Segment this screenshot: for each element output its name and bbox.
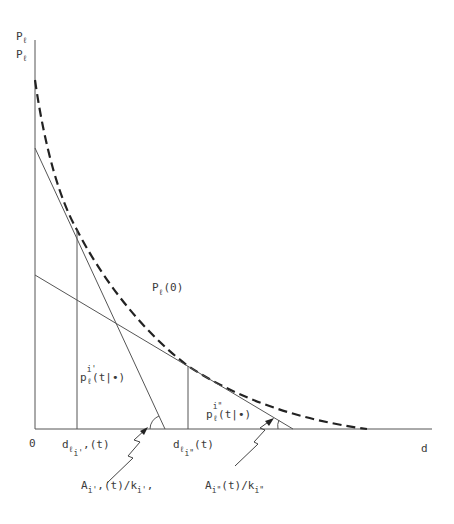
arrow-2: [235, 418, 274, 466]
arrow-1: [107, 427, 148, 483]
tangent-line-1: [35, 148, 165, 429]
slope-label-2: Ai"(t)/ki": [205, 479, 264, 495]
tangent-line-2: [35, 275, 293, 429]
price-label-1: pi'ℓ(t|•): [80, 365, 125, 386]
tick-label-1: dℓi',(t): [62, 438, 110, 458]
origin-label: 0: [29, 437, 36, 450]
price-label-2: pi"ℓ(t|•): [206, 402, 251, 423]
y-label-top: Pℓ: [16, 30, 27, 45]
diagram-canvas: Pℓ Pℓ 0 d Pℓ(0) pi'ℓ(t|•) pi"ℓ(t|•) dℓi'…: [0, 0, 454, 524]
curve-label: Pℓ(0): [152, 281, 183, 297]
slope-label-1: Ai',(t)/ki',: [81, 479, 153, 495]
x-axis-label: d: [421, 442, 428, 455]
y-label-bottom: Pℓ: [16, 48, 27, 63]
tick-label-2: dℓi"(t): [173, 438, 214, 458]
angle-arc-1: [150, 416, 159, 429]
angle-arc-2: [278, 420, 279, 429]
